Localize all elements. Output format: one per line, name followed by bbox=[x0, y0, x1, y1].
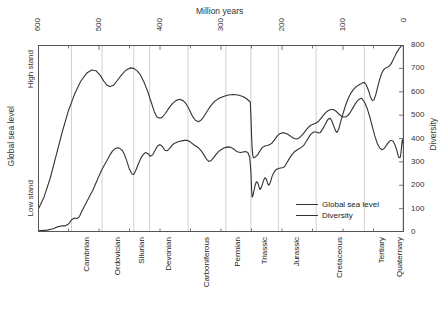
period-label: Ordovician bbox=[113, 237, 122, 275]
chart-root: Million years 6005004003002001000 Global… bbox=[0, 0, 443, 309]
period-label: Carboniferous bbox=[202, 237, 211, 287]
period-label: Silurian bbox=[137, 237, 146, 264]
y-tick-label: 500 bbox=[411, 110, 424, 119]
x-tick-label: 200 bbox=[277, 18, 286, 31]
period-label: Triassic bbox=[260, 237, 269, 264]
left-axis-title: Global sea level bbox=[6, 106, 16, 166]
legend-swatch-line-icon bbox=[296, 204, 318, 205]
y-tick-label: 300 bbox=[411, 157, 424, 166]
period-label: Tertiary bbox=[377, 237, 386, 263]
legend-label: Global sea level bbox=[322, 200, 379, 209]
legend-label: Diversity bbox=[322, 211, 353, 220]
y-tick-label: 0 bbox=[411, 227, 415, 236]
y-tick-label: 200 bbox=[411, 180, 424, 189]
x-tick-label: 400 bbox=[155, 18, 164, 31]
right-axis-title: Diversity bbox=[428, 118, 438, 151]
left-axis-high-label: High stand bbox=[26, 50, 35, 88]
x-tick-label: 300 bbox=[216, 18, 225, 31]
period-label: Cretaceous bbox=[335, 237, 344, 278]
legend-item-diversity: Diversity bbox=[296, 210, 379, 221]
period-label: Quaternary bbox=[395, 237, 404, 277]
x-tick-label: 500 bbox=[94, 18, 103, 31]
left-axis-low-label: Low stand bbox=[26, 180, 35, 216]
x-tick-label: 0 bbox=[399, 18, 408, 22]
chart-legend: Global sea level Diversity bbox=[296, 199, 379, 221]
x-tick-label: 600 bbox=[33, 18, 42, 31]
x-tick-label: 100 bbox=[338, 18, 347, 31]
y-tick-label: 400 bbox=[411, 134, 424, 143]
period-label: Cambrian bbox=[82, 237, 91, 272]
legend-item-global-sea-level: Global sea level bbox=[296, 199, 379, 210]
y-tick-label: 100 bbox=[411, 204, 424, 213]
period-label: Jurassic bbox=[292, 237, 301, 266]
x-axis-title: Million years bbox=[196, 6, 243, 16]
y-tick-label: 600 bbox=[411, 87, 424, 96]
y-tick-label: 700 bbox=[411, 63, 424, 72]
y-tick-label: 800 bbox=[411, 40, 424, 49]
period-label: Permian bbox=[233, 237, 242, 267]
legend-swatch-line-icon bbox=[296, 215, 318, 216]
period-label: Devonian bbox=[164, 237, 173, 271]
